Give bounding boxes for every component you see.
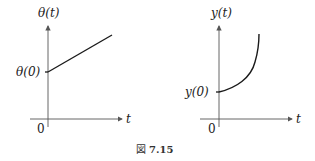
left-origin-label: 0 (37, 122, 45, 136)
linear-curve (48, 35, 112, 72)
figure-canvas: θ(t) t 0 θ(0) y(t) t 0 y(0) (0, 0, 315, 161)
right-x-axis-label: t (296, 112, 301, 126)
left-x-axis-label: t (126, 112, 131, 126)
figure-caption: 図7.15 (136, 141, 173, 156)
caption-number: 7.15 (149, 144, 173, 155)
right-origin-label: 0 (208, 122, 216, 136)
right-intercept-label: y(0) (184, 85, 209, 99)
left-graph: θ(t) t 0 θ(0) (16, 6, 131, 136)
exponential-curve (219, 34, 259, 92)
right-graph: y(t) t 0 y(0) (184, 6, 301, 136)
left-y-axis-label: θ(t) (38, 6, 60, 20)
right-y-axis-label: y(t) (210, 6, 232, 20)
caption-prefix: 図 (136, 144, 146, 155)
left-intercept-label: θ(0) (16, 65, 41, 79)
